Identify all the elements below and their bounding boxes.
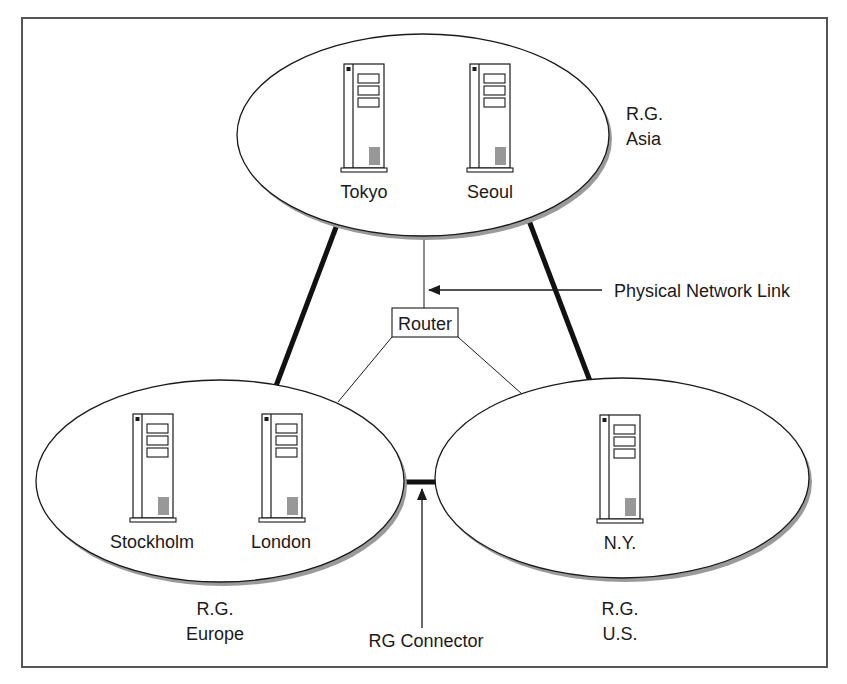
routing-group-europe: Stockholm London (36, 380, 407, 586)
server-tower-icon (597, 415, 643, 523)
rg-europe-label-line2: Europe (186, 624, 244, 644)
physical-link-router-us (458, 337, 522, 394)
link-asia-us (528, 218, 590, 381)
router-label: Router (398, 314, 452, 334)
rg-europe-label-line1: R.G. (196, 599, 233, 619)
router-box: Router (392, 308, 458, 337)
routing-group-asia: Tokyo Seoul (237, 34, 612, 240)
rg-us-label-line2: U.S. (602, 624, 637, 644)
server-tower-icon (467, 64, 513, 172)
server-tower-icon (341, 64, 387, 172)
physical-link-label: Physical Network Link (614, 281, 791, 301)
server-tower-icon (259, 414, 305, 522)
server-label-london: London (251, 532, 311, 552)
rg-asia-label-line1: R.G. (626, 104, 663, 124)
routing-group-us: N.Y. (435, 378, 812, 582)
rg-connector-label: RG Connector (368, 631, 483, 651)
server-label-ny: N.Y. (604, 533, 637, 553)
rg-us-label-line1: R.G. (601, 599, 638, 619)
network-diagram: Tokyo Seoul R.G. Asia Stockholm London R… (0, 0, 847, 684)
link-asia-europe (276, 222, 338, 386)
rg-asia-label-line2: Asia (626, 129, 662, 149)
server-label-seoul: Seoul (467, 182, 513, 202)
server-tower-icon (130, 414, 176, 522)
server-label-tokyo: Tokyo (340, 182, 387, 202)
physical-link-router-europe (338, 337, 392, 402)
server-label-stockholm: Stockholm (110, 532, 194, 552)
